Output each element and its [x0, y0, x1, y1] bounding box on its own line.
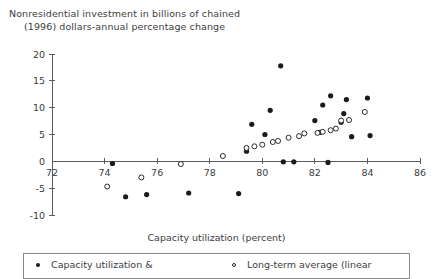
data-point-hollow: [270, 140, 275, 145]
data-point-hollow: [339, 118, 344, 123]
data-point-hollow: [362, 109, 367, 114]
data-point-hollow: [320, 129, 325, 134]
y-tick-label: 15: [33, 75, 45, 86]
axes: 7274767880828486-10-505101520: [29, 49, 426, 221]
x-tick-label: 82: [309, 167, 321, 178]
data-point-hollow: [105, 184, 110, 189]
data-point-filled: [278, 63, 283, 68]
data-point-hollow: [139, 175, 144, 180]
data-point-filled: [341, 111, 346, 116]
data-point-filled: [320, 102, 325, 107]
data-point-filled: [328, 93, 333, 98]
x-tick-label: 76: [151, 167, 163, 178]
data-point-filled: [262, 132, 267, 137]
data-point-hollow: [297, 134, 302, 139]
data-point-hollow: [276, 138, 281, 143]
y-tick-label: 5: [39, 129, 45, 140]
data-point-filled: [123, 194, 128, 199]
y-tick-label: -10: [29, 210, 45, 221]
x-axis-title: Capacity utilization (percent): [0, 232, 433, 243]
x-tick-label: 72: [46, 167, 58, 178]
data-point-filled: [325, 160, 330, 165]
data-point-filled: [110, 161, 115, 166]
y-tick-label: 0: [39, 156, 45, 167]
data-point-filled: [281, 159, 286, 164]
data-point-hollow: [244, 145, 249, 150]
data-point-filled: [365, 95, 370, 100]
x-tick-label: 80: [256, 167, 268, 178]
data-point-filled: [291, 159, 296, 164]
data-point-hollow: [178, 162, 183, 167]
data-point-filled: [268, 108, 273, 113]
data-point-hollow: [302, 131, 307, 136]
data-point-hollow: [220, 153, 225, 158]
data-point-filled: [236, 191, 241, 196]
data-point-hollow: [286, 135, 291, 140]
data-point-hollow: [347, 118, 352, 123]
x-tick-label: 78: [204, 167, 216, 178]
x-tick-label: 74: [99, 167, 111, 178]
legend: Capacity utilization & Long-term average…: [23, 253, 410, 279]
data-point-filled: [344, 97, 349, 102]
y-tick-label: 10: [33, 102, 45, 113]
legend-item-long-term-average: Long-term average (linear: [231, 259, 372, 271]
data-point-filled: [186, 190, 191, 195]
data-point-hollow: [260, 142, 265, 147]
legend-item-capacity-utilization: Capacity utilization &: [35, 259, 153, 271]
y-tick-label: -5: [36, 183, 45, 194]
data-point-filled: [249, 122, 254, 127]
x-tick-label: 84: [361, 167, 373, 178]
data-point-hollow: [315, 130, 320, 135]
data-points: [105, 63, 373, 199]
filled-circle-icon: [35, 259, 45, 271]
data-point-filled: [312, 118, 317, 123]
y-tick-label: 20: [33, 49, 45, 60]
data-point-filled: [144, 192, 149, 197]
data-point-hollow: [252, 144, 257, 149]
data-point-hollow: [328, 128, 333, 133]
x-tick-label: 86: [414, 167, 426, 178]
data-point-filled: [367, 133, 372, 138]
hollow-circle-icon: [231, 259, 241, 271]
data-point-filled: [349, 134, 354, 139]
legend-label-0: Capacity utilization &: [51, 259, 153, 270]
legend-label-1: Long-term average (linear: [247, 259, 372, 270]
data-point-hollow: [333, 126, 338, 131]
